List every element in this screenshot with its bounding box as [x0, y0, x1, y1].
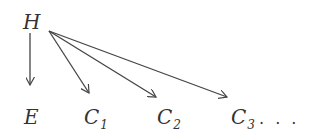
arrow-h-to-c3	[49, 31, 227, 97]
node-c2: C2	[157, 107, 181, 127]
arrow-h-to-c1	[49, 31, 89, 93]
node-c1-label: C	[84, 105, 99, 129]
node-c2-subscript: 2	[173, 118, 181, 132]
node-e: E	[24, 107, 39, 127]
ellipsis: . . .	[259, 109, 299, 128]
node-c3: C3. . .	[231, 107, 299, 127]
node-c2-label: C	[157, 105, 172, 129]
node-c3-label: C	[231, 105, 246, 129]
node-c1: C1	[84, 107, 108, 127]
arrow-h-to-c2	[49, 31, 156, 97]
node-c3-subscript: 3	[247, 118, 255, 132]
node-c1-subscript: 1	[100, 118, 108, 132]
node-h-label: H	[23, 10, 40, 34]
node-e-label: E	[24, 105, 39, 129]
node-h: H	[23, 12, 40, 32]
